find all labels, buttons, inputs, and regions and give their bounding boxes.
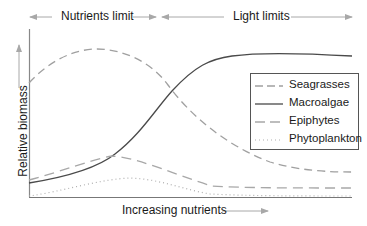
epiphytes-swatch-icon	[251, 113, 287, 130]
legend-label: Seagrasses	[289, 78, 350, 90]
legend: Seagrasses Macroalgae Epiphytes Phytopla…	[250, 73, 359, 150]
phytoplankton-swatch-icon	[251, 131, 287, 148]
nutrients-limit-label: Nutrients limit	[61, 9, 134, 23]
legend-label: Phytoplankton	[289, 132, 362, 144]
legend-label: Epiphytes	[289, 114, 340, 126]
seagrasses-swatch-icon	[251, 77, 287, 94]
light-limits-label: Light limits	[233, 9, 290, 23]
x-axis-label: Increasing nutrients	[122, 203, 227, 217]
y-axis-label: Relative biomass	[16, 81, 30, 181]
legend-item-seagrasses: Seagrasses	[251, 77, 360, 94]
legend-item-epiphytes: Epiphytes	[251, 113, 360, 130]
macroalgae-swatch-icon	[251, 95, 287, 112]
legend-item-phytoplankton: Phytoplankton	[251, 131, 360, 148]
legend-label: Macroalgae	[289, 96, 349, 108]
legend-item-macroalgae: Macroalgae	[251, 95, 360, 112]
series-phytoplankton	[29, 178, 352, 196]
